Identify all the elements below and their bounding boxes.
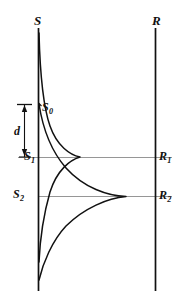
response-curve-1 xyxy=(39,33,80,262)
source-axis-label: S xyxy=(34,14,41,27)
point-label-s0-subscript: 0 xyxy=(49,107,53,116)
point-label-s1-base: S xyxy=(24,149,31,163)
point-label-r2-subscript: 2 xyxy=(167,195,171,204)
point-label-r2-base: R xyxy=(159,188,167,202)
point-label-s2-subscript: 2 xyxy=(20,194,24,203)
point-label-r2: R2 xyxy=(159,189,171,201)
point-label-s0-base: S xyxy=(42,100,49,114)
receiver-axis-label: R xyxy=(152,14,161,27)
point-label-r1: R1 xyxy=(159,150,171,162)
point-label-r1-subscript: 1 xyxy=(167,156,171,165)
point-label-s0: S0 xyxy=(42,101,53,113)
point-label-r1-base: R xyxy=(159,149,167,163)
point-label-s1-subscript: 1 xyxy=(31,156,35,165)
distance-label: d xyxy=(14,125,20,137)
point-label-s1: S1 xyxy=(24,150,35,162)
point-label-s2-base: S xyxy=(13,187,20,201)
point-label-s2: S2 xyxy=(13,188,24,200)
figure-diagram: S R S0 S1 S2 R1 R2 d xyxy=(0,0,182,305)
